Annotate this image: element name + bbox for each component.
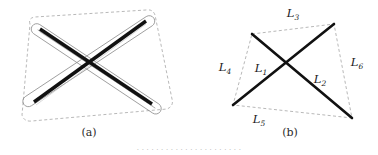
panel-b-caption: (b) [282,126,298,139]
label-L6: L6 [350,55,364,71]
label-L4-sub: 4 [225,67,231,76]
label-L1-sub: 1 [262,68,267,77]
figure-root: (a) L3 L4 L1 L2 [0,0,378,155]
label-L6-base: L [350,55,359,69]
label-L2: L2 [313,72,327,88]
label-L6-sub: 6 [358,62,363,71]
label-L5-sub: 5 [260,119,265,128]
label-L3: L3 [286,6,300,22]
label-L1-base: L [254,61,263,75]
label-L5-base: L [252,112,261,126]
figure-canvas: (a) L3 L4 L1 L2 [0,0,378,155]
label-L4-base: L [218,60,227,74]
label-L3-sub: 3 [294,13,299,22]
label-L2-base: L [313,72,322,86]
label-L3-base: L [286,6,295,20]
panel-a-bar-1 [40,29,152,104]
label-L2-sub: 2 [320,79,326,88]
panel-a-caption: (a) [81,126,96,139]
panel-b: L3 L4 L1 L2 L6 L5 (b) [218,6,364,139]
panel-b-diagonal-2 [233,24,334,105]
label-L1: L1 [254,61,267,77]
label-L5: L5 [252,112,266,128]
figure-caption-fragment: · · · · · · · · · · · · · · · · · · · · … [0,146,378,155]
label-L4: L4 [218,60,232,76]
panel-a: (a) [21,10,173,139]
